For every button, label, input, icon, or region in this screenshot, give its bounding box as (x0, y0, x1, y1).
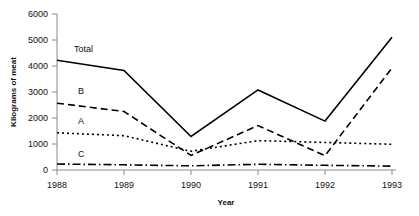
x-tick-label-1992: 1992 (315, 180, 335, 190)
x-tick-label-1989: 1989 (114, 180, 134, 190)
series-label-total: Total (74, 44, 93, 54)
y-tick-label-6000: 6000 (28, 9, 48, 19)
y-tick-label-2000: 2000 (28, 113, 48, 123)
y-tick-label-0: 0 (43, 165, 48, 175)
x-tick-label-1993: 1993 (382, 180, 402, 190)
line-chart: 6000 5000 4000 3000 2000 1000 0 1988 198… (0, 0, 419, 216)
series-label-c: C (78, 149, 85, 159)
x-axis-title: Year (218, 198, 235, 207)
y-tick-label-5000: 5000 (28, 35, 48, 45)
y-tick-label-3000: 3000 (28, 87, 48, 97)
x-tick-label-1991: 1991 (248, 180, 268, 190)
series-label-b: B (78, 86, 84, 96)
x-tick-label-1988: 1988 (47, 180, 67, 190)
y-axis-title: Kilograms of meat (9, 57, 18, 127)
series-label-a: A (78, 116, 84, 126)
chart-canvas: 6000 5000 4000 3000 2000 1000 0 1988 198… (0, 0, 419, 216)
y-tick-label-1000: 1000 (28, 139, 48, 149)
y-tick-label-4000: 4000 (28, 61, 48, 71)
x-tick-label-1990: 1990 (181, 180, 201, 190)
